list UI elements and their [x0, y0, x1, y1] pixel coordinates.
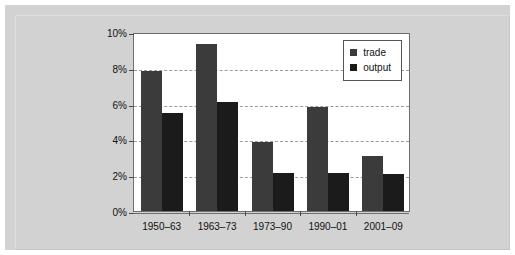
- y-axis-label-10%: 10%: [107, 29, 127, 39]
- y-tick-6%: [129, 106, 134, 107]
- y-axis-label-8%: 8%: [113, 65, 127, 75]
- y-tick-0%: [129, 213, 134, 214]
- x-tick-1990–01: [356, 211, 357, 216]
- bar-trade-1950–63: [141, 71, 162, 211]
- x-tick-1950–63: [189, 211, 190, 216]
- legend-label-output: output: [363, 63, 391, 73]
- x-tick-1963–73: [245, 211, 246, 216]
- y-tick-10%: [129, 34, 134, 35]
- x-tick-1973–90: [300, 211, 301, 216]
- y-axis-label-2%: 2%: [113, 172, 127, 182]
- bar-output-1990–01: [328, 173, 349, 211]
- x-axis-label-1990–01: 1990–01: [308, 222, 347, 232]
- legend-item-output: output: [350, 60, 391, 75]
- legend-swatch-output-icon: [350, 64, 357, 71]
- y-tick-2%: [129, 177, 134, 178]
- x-axis-label-1973–90: 1973–90: [253, 222, 292, 232]
- plot-area: 0%2%4%6%8%10% 1950–631963–731973–901990–…: [133, 33, 410, 212]
- bar-trade-1973–90: [252, 142, 273, 211]
- y-axis-label-6%: 6%: [113, 101, 127, 111]
- bar-output-2001–09: [383, 174, 404, 211]
- chart-legend: trade output: [343, 40, 402, 81]
- legend-item-trade: trade: [350, 45, 391, 60]
- legend-swatch-trade-icon: [350, 49, 357, 56]
- figure-container: 0%2%4%6%8%10% 1950–631963–731973–901990–…: [0, 0, 515, 255]
- bar-trade-1963–73: [196, 44, 217, 211]
- bar-trade-1990–01: [307, 107, 328, 211]
- gridline-0%: [134, 213, 409, 214]
- legend-label-trade: trade: [363, 48, 386, 58]
- x-axis-label-1950–63: 1950–63: [142, 222, 181, 232]
- gridline-6%: [134, 106, 409, 107]
- bar-output-1950–63: [162, 113, 183, 211]
- bar-trade-2001–09: [362, 156, 383, 211]
- bar-output-1973–90: [273, 173, 294, 211]
- y-axis-label-0%: 0%: [113, 208, 127, 218]
- bar-chart: 0%2%4%6%8%10% 1950–631963–731973–901990–…: [0, 0, 515, 255]
- bar-output-1963–73: [217, 102, 238, 211]
- x-axis-label-1963–73: 1963–73: [198, 222, 237, 232]
- y-tick-4%: [129, 141, 134, 142]
- x-axis-label-2001–09: 2001–09: [364, 222, 403, 232]
- y-tick-8%: [129, 70, 134, 71]
- y-axis-label-4%: 4%: [113, 136, 127, 146]
